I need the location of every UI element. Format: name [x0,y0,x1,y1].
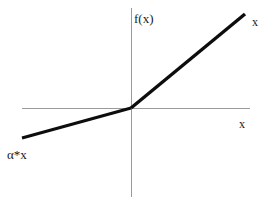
y-axis-label: f(x) [134,12,154,25]
positive-branch-line [131,14,245,108]
negative-branch-label: α*x [7,148,27,161]
plot-canvas [0,0,269,205]
x-axis-label: x [239,118,245,130]
positive-branch-label: x [252,16,258,28]
negative-branch-line [22,108,131,138]
leaky-relu-figure: f(x) x x α*x [0,0,269,205]
